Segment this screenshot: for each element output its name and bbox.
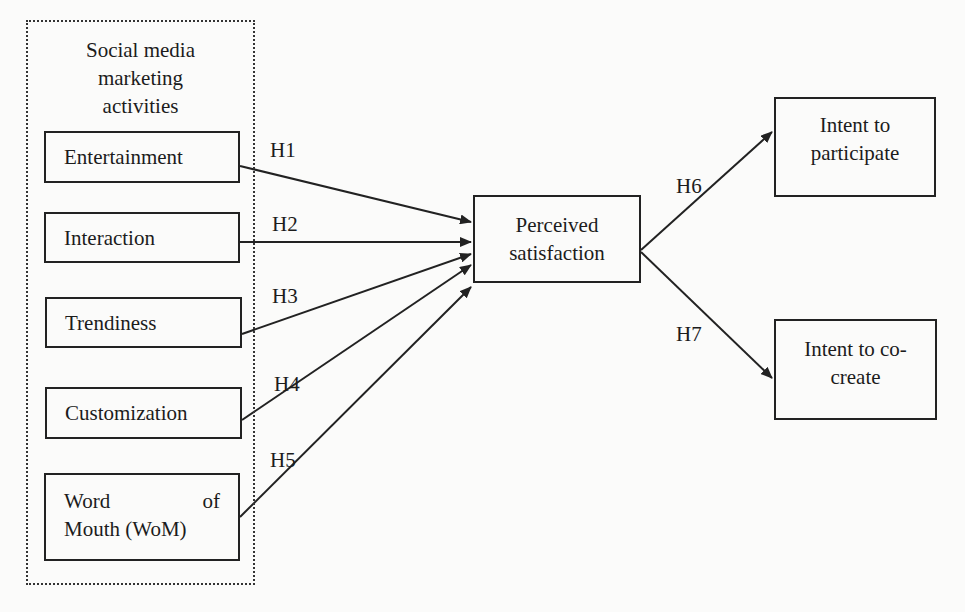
hypothesis-label-h4: H4 (274, 372, 300, 396)
node-label-line1: Word of (64, 487, 220, 515)
node-intent-to-co-create: Intent to co- create (774, 319, 937, 420)
node-interaction: Interaction (44, 212, 240, 263)
node-label-line2: create (830, 363, 880, 391)
hypothesis-label-h6: H6 (676, 174, 702, 198)
hypothesis-label-h1: H1 (270, 138, 296, 162)
node-intent-to-participate: Intent to participate (774, 97, 936, 197)
group-title-line: marketing (28, 64, 253, 92)
arrow-h6 (641, 132, 772, 250)
node-word-of-mouth: Word of Mouth (WoM) (44, 473, 240, 561)
group-title: Social media marketing activities (28, 36, 253, 120)
node-label-line1: Intent to (820, 111, 891, 139)
node-label-line2: Mouth (WoM) (64, 515, 220, 543)
hypothesis-label-h5: H5 (270, 448, 296, 472)
hypothesis-label-h3: H3 (272, 284, 298, 308)
hypothesis-label-h2: H2 (272, 212, 298, 236)
node-label: Trendiness (65, 309, 156, 337)
node-trendiness: Trendiness (45, 297, 242, 348)
node-label-line2: satisfaction (509, 239, 605, 267)
hypothesis-label-h7: H7 (676, 322, 702, 346)
group-title-line: activities (28, 92, 253, 120)
node-perceived-satisfaction: Perceived satisfaction (473, 195, 641, 283)
arrow-h7 (641, 252, 772, 378)
node-label: Interaction (64, 224, 155, 252)
node-label-word: Word (64, 487, 110, 515)
node-customization: Customization (45, 387, 242, 439)
node-entertainment: Entertainment (44, 131, 240, 183)
node-label-line1: Intent to co- (804, 335, 907, 363)
group-title-line: Social media (28, 36, 253, 64)
node-label: Customization (65, 399, 188, 427)
node-label-line1: Perceived (516, 211, 599, 239)
node-label-of: of (203, 487, 221, 515)
arrow-h5 (240, 287, 471, 517)
node-label-line2: participate (811, 139, 900, 167)
node-label: Entertainment (64, 143, 183, 171)
